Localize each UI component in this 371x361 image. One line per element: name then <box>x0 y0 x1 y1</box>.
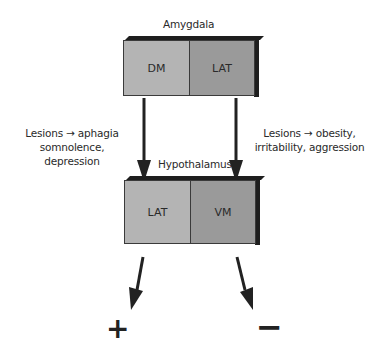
arrow-plus-icon <box>129 257 143 310</box>
left-lesion-caption: Lesions → aphagia somnolence, depression <box>12 126 132 168</box>
right-caption-line1: Lesions → obesity, <box>252 126 367 140</box>
hypothalamus-vm-label: VM <box>214 206 231 219</box>
right-caption-line2: irritability, aggression <box>252 140 367 154</box>
plus-sign: + <box>106 315 129 343</box>
hypothalamus-lat-cell: LAT <box>124 180 191 244</box>
hypothalamus-lat-label: LAT <box>148 206 168 219</box>
arrow-left-down-icon <box>137 98 151 182</box>
hypothalamus-vm-cell: VM <box>190 180 256 244</box>
right-lesion-caption: Lesions → obesity, irritability, aggress… <box>252 126 367 154</box>
left-caption-line1: Lesions → aphagia <box>12 126 132 140</box>
minus-sign: − <box>256 313 283 341</box>
hypothalamus-box: LAT VM <box>124 176 261 248</box>
left-caption-line2: somnolence, depression <box>12 140 132 168</box>
arrow-minus-icon <box>237 257 253 310</box>
hypothalamus-title: Hypothalamus <box>158 158 232 170</box>
